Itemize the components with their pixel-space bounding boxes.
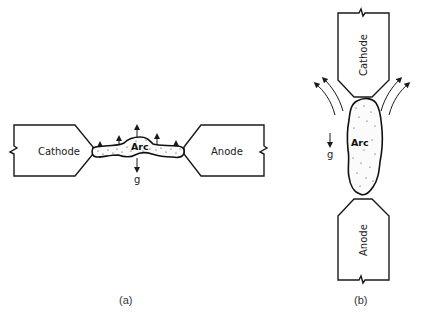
cathode-electrode-vertical: Cathode bbox=[338, 9, 389, 97]
curved-arrow-icon bbox=[381, 79, 400, 111]
gravity-indicator-b: g bbox=[327, 133, 333, 160]
caption-b: (b) bbox=[354, 294, 367, 306]
panel-a: Cathode Anode bbox=[10, 125, 267, 306]
gravity-label-b: g bbox=[327, 149, 333, 160]
curved-arrow-icon bbox=[324, 79, 343, 111]
anode-electrode-horizontal: Anode bbox=[184, 125, 267, 176]
arc-orientation-diagram: Cathode Anode bbox=[0, 0, 422, 319]
gravity-indicator-a: g bbox=[134, 158, 140, 185]
cathode-label-b: Cathode bbox=[358, 34, 369, 76]
arc-label-b: Arc bbox=[351, 137, 369, 148]
anode-label-b: Anode bbox=[358, 224, 369, 256]
flow-arrows-left bbox=[316, 79, 343, 115]
cathode-electrode-horizontal: Cathode bbox=[10, 125, 93, 176]
anode-label-a: Anode bbox=[211, 146, 243, 157]
arc-plasma-horizontal: Arc bbox=[92, 137, 184, 158]
panel-b: Cathode Anode bbox=[316, 9, 408, 306]
arc-plasma-vertical: Arc bbox=[347, 99, 382, 195]
arc-label-a: Arc bbox=[131, 141, 149, 152]
cathode-label-a: Cathode bbox=[38, 146, 80, 157]
anode-electrode-vertical: Anode bbox=[338, 199, 389, 283]
caption-a: (a) bbox=[119, 294, 132, 306]
gravity-label-a: g bbox=[134, 174, 140, 185]
